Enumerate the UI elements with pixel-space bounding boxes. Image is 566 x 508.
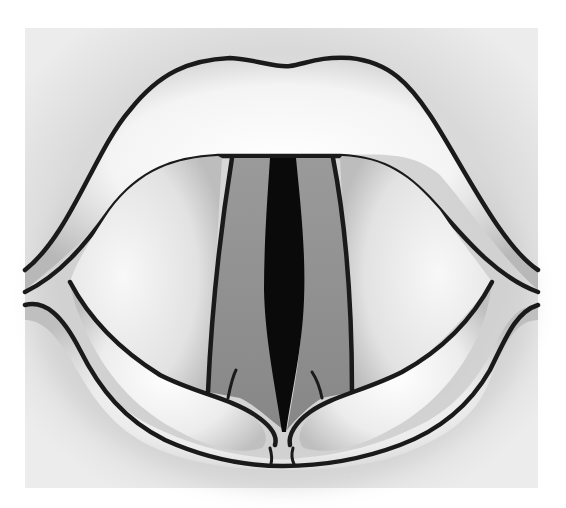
larynx-illustration [0, 0, 566, 508]
left-notch [270, 448, 272, 464]
